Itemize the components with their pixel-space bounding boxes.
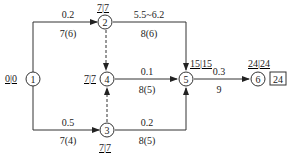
node-5-id: 5 (184, 74, 189, 85)
network-diagram: 1 2 4 3 5 6 24 0|0 7|7 7|7 7|7 15|15 24|… (0, 0, 288, 157)
node-4-times: 7|7 (84, 73, 96, 84)
edge-2-5-top: 5.5~6.2 (134, 9, 164, 20)
edge-1-3-bottom: 7(4) (60, 135, 77, 147)
node-3-id: 3 (105, 125, 110, 136)
edge-3-5-bottom: 8(5) (139, 135, 156, 147)
total-duration: 24 (273, 74, 283, 85)
node-2-id: 2 (103, 17, 108, 28)
diagram-svg: 1 2 4 3 5 6 24 0|0 7|7 7|7 7|7 15|15 24|… (0, 0, 288, 157)
edge-5-6-bottom: 9 (217, 84, 222, 95)
edge-4-5-bottom: 8(5) (139, 84, 156, 96)
node-2-times: 7|7 (97, 2, 109, 13)
node-6-id: 6 (256, 74, 261, 85)
edge-1-3-top: 0.5 (62, 117, 75, 128)
node-5-times: 15|15 (190, 58, 212, 69)
edge-4-5-top: 0.1 (141, 66, 154, 77)
edge-1-2-bottom: 7(6) (60, 28, 77, 40)
edge-2-5-bottom: 8(6) (141, 28, 158, 40)
node-4-id: 4 (105, 74, 110, 85)
edge-3-5-top: 0.2 (141, 117, 154, 128)
edge-5-6-top: 0.3 (213, 66, 226, 77)
node-6-times: 24|24 (248, 58, 270, 69)
node-1-times: 0|0 (5, 73, 17, 84)
node-3-times: 7|7 (99, 142, 111, 153)
node-1-id: 1 (31, 74, 36, 85)
edge-1-2-top: 0.2 (62, 9, 75, 20)
